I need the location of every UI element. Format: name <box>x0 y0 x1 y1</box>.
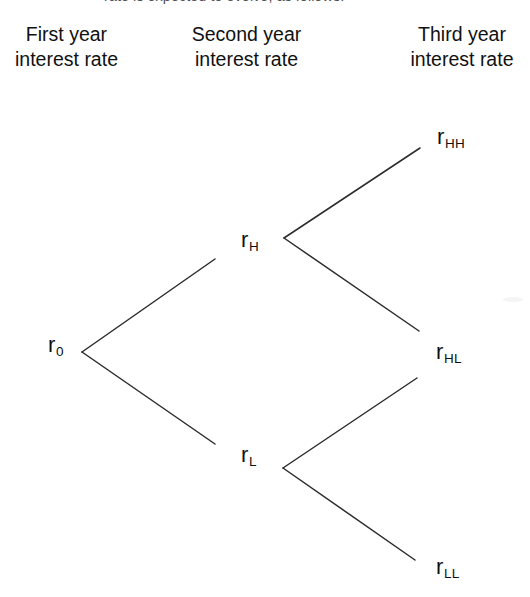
tree-node-rHH: rHH <box>437 126 465 148</box>
tree-edge-rL-to-rLL <box>283 468 415 560</box>
tree-node-rHL-subscript: HL <box>444 351 462 366</box>
tree-edge-rH-to-rHL <box>284 238 419 331</box>
tree-node-r0-base: r <box>48 332 56 357</box>
tree-node-rLL-base: r <box>436 554 444 579</box>
tree-node-rL-subscript: L <box>249 454 257 469</box>
tree-edges <box>0 0 530 597</box>
tree-edge-r0-to-rL <box>82 352 215 444</box>
tree-node-rHH-subscript: HH <box>445 136 465 151</box>
tree-node-rL: rL <box>241 444 256 466</box>
tree-edge-r0-to-rH <box>82 259 215 352</box>
scan-artifact <box>503 297 523 302</box>
tree-node-rL-base: r <box>241 442 249 467</box>
tree-node-rLL: rLL <box>436 556 459 578</box>
tree-node-rH-subscript: H <box>249 239 259 254</box>
tree-node-rH-base: r <box>241 227 249 252</box>
tree-node-r0-subscript: 0 <box>56 344 64 359</box>
interest-rate-tree-figure: rate is expected to evolve, as follows: … <box>0 0 530 597</box>
tree-node-rHH-base: r <box>437 124 445 149</box>
tree-edge-rH-to-rHH <box>284 148 420 238</box>
tree-node-rHL: rHL <box>436 341 461 363</box>
tree-node-rH: rH <box>241 229 259 251</box>
tree-edge-rL-to-rHL <box>283 378 417 468</box>
tree-node-rLL-subscript: LL <box>444 566 460 581</box>
tree-node-rHL-base: r <box>436 339 444 364</box>
tree-node-r0: r0 <box>48 334 63 356</box>
